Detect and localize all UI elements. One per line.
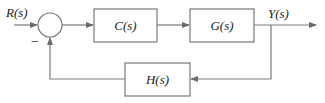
- output-label: Y(s): [268, 6, 289, 21]
- feedback-label: H(s): [145, 72, 169, 87]
- plant-label: G(s): [210, 18, 233, 33]
- feedback-path-to-junction: [50, 38, 125, 79]
- input-label: R(s): [5, 5, 28, 20]
- block-diagram: R(s) − C(s) G(s) Y(s) H(s): [0, 0, 325, 103]
- controller-label: C(s): [114, 18, 136, 33]
- feedback-minus-sign: −: [31, 34, 39, 49]
- summing-junction: [38, 13, 62, 37]
